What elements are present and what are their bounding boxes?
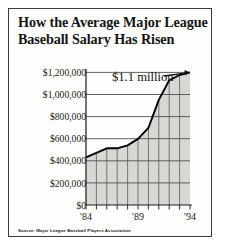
source-note: Source: Major League Baseball Players As… bbox=[18, 228, 131, 233]
chart-figure: How the Average Major League Baseball Sa… bbox=[8, 8, 212, 237]
x-tick-label-84: '84 bbox=[80, 211, 92, 222]
x-axis-labels: '84 '89 '94 bbox=[9, 9, 213, 238]
x-tick-label-94: '94 bbox=[184, 211, 196, 222]
plot-area: $1.1 million $1,200,000 $1,000,000 $800,… bbox=[9, 9, 213, 238]
x-tick-label-89: '89 bbox=[132, 211, 144, 222]
